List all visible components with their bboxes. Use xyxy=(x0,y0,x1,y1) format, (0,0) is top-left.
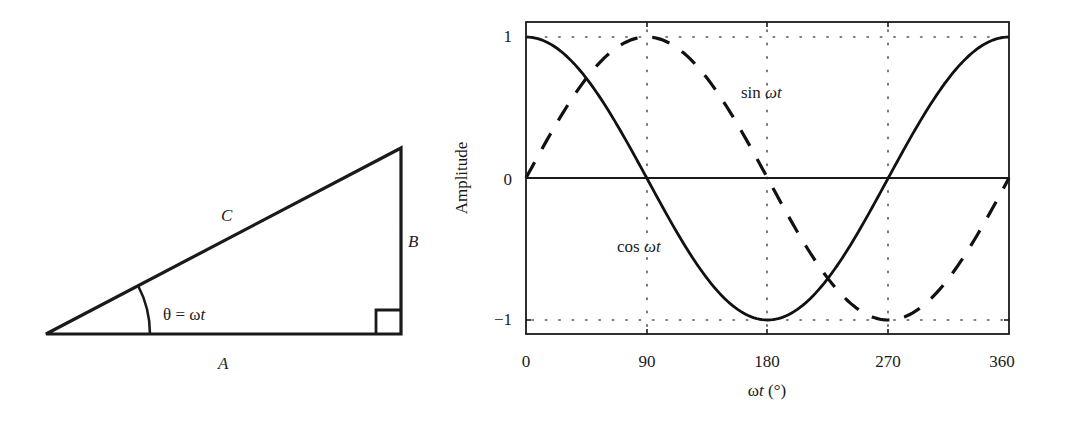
annotation-cos: cos ωt xyxy=(617,238,661,255)
right-angle-marker xyxy=(376,310,401,334)
plot-area xyxy=(526,22,1009,334)
theta-symbol: θ xyxy=(163,305,171,324)
x-tick-180: 180 xyxy=(754,352,780,372)
y-tick-neg1: −1 xyxy=(482,310,512,330)
annotation-sin: sin ωt xyxy=(741,84,782,101)
cos-t: t xyxy=(656,237,661,256)
label-adjacent-a: A xyxy=(218,355,228,372)
x-axis-label: ωt (°) xyxy=(748,381,786,401)
cos-fn: cos xyxy=(617,237,644,256)
equals-sign: = xyxy=(171,305,189,324)
sin-t: t xyxy=(777,83,782,102)
right-triangle-diagram xyxy=(0,0,1071,425)
cos-omega: ω xyxy=(644,237,656,256)
omega-symbol: ω xyxy=(189,305,200,324)
y-axis-label: Amplitude xyxy=(452,142,472,215)
x-axis-unit: (°) xyxy=(764,381,786,400)
x-tick-90: 90 xyxy=(639,352,656,372)
x-tick-0: 0 xyxy=(522,352,531,372)
sin-fn: sin xyxy=(741,83,765,102)
gridlines xyxy=(532,30,1005,330)
label-opposite-b: B xyxy=(408,233,418,250)
triangle-outline xyxy=(46,148,401,334)
x-axis-omega: ω xyxy=(748,381,759,400)
t-symbol: t xyxy=(200,305,205,324)
y-tick-0: 0 xyxy=(482,170,512,190)
label-angle-theta: θ = ωt xyxy=(163,306,205,323)
y-tick-1: 1 xyxy=(482,27,512,47)
label-hypotenuse-c: C xyxy=(221,207,232,224)
figure: C B A θ = ωt 0 90 180 270 360 1 0 −1 Amp… xyxy=(0,0,1071,425)
angle-arc xyxy=(138,286,150,334)
x-tick-270: 270 xyxy=(875,352,901,372)
sin-omega: ω xyxy=(765,83,777,102)
x-tick-360: 360 xyxy=(989,352,1015,372)
triangle-shape xyxy=(46,148,401,334)
